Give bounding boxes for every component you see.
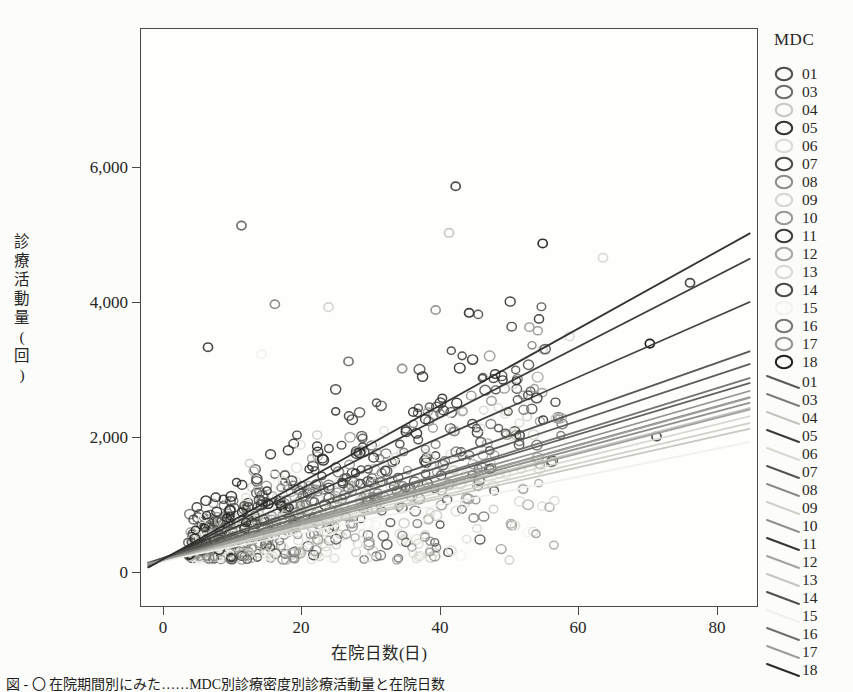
legend-marker-row-07[interactable]: 07 [766, 155, 853, 173]
legend-marker-label: 06 [802, 137, 818, 155]
legend-marker-label: 01 [802, 65, 818, 83]
x-tick-mark-80 [717, 607, 718, 615]
legend-marker-label: 16 [802, 317, 818, 335]
legend-marker-row-06[interactable]: 06 [766, 137, 853, 155]
x-tick-mark-0 [163, 607, 164, 615]
legend-line-label: 04 [802, 409, 818, 427]
x-tick-label-80: 80 [687, 618, 747, 638]
legend-line-label: 10 [802, 517, 818, 535]
circle-marker-icon [771, 137, 797, 155]
figure-caption: 図 ‐ 〇 在院期間別にみた……MDC別診療密度別診療活動量と在院日数 [6, 676, 847, 692]
legend-marker-row-10[interactable]: 10 [766, 209, 853, 227]
legend-line-row-09[interactable]: 09 [766, 499, 853, 517]
legend-marker-label: 18 [802, 353, 818, 371]
legend-marker-row-14[interactable]: 14 [766, 281, 853, 299]
legend-line-label: 13 [802, 571, 818, 589]
legend-marker-label: 14 [802, 281, 818, 299]
y-tick-label-0: 0 [50, 563, 128, 583]
circle-marker-icon [771, 101, 797, 119]
circle-marker-icon [771, 191, 797, 209]
line-segment-icon [766, 463, 800, 481]
line-segment-icon [766, 445, 800, 463]
legend-line-row-17[interactable]: 17 [766, 643, 853, 661]
legend-line-row-10[interactable]: 10 [766, 517, 853, 535]
legend-line-row-14[interactable]: 14 [766, 589, 853, 607]
line-segment-icon [766, 607, 800, 625]
circle-marker-icon [771, 209, 797, 227]
legend-line-row-04[interactable]: 04 [766, 409, 853, 427]
legend-line-row-01[interactable]: 01 [766, 373, 853, 391]
legend-marker-row-04[interactable]: 04 [766, 101, 853, 119]
scatter-plot-canvas [141, 29, 757, 606]
circle-marker-icon [771, 245, 797, 263]
y-axis-title-char: 回 [8, 346, 36, 365]
circle-marker-icon [771, 173, 797, 191]
legend-marker-row-05[interactable]: 05 [766, 119, 853, 137]
x-tick-mark-20 [301, 607, 302, 615]
legend-line-label: 01 [802, 373, 818, 391]
x-tick-label-60: 60 [548, 618, 608, 638]
figure-root: 診 療 活 動 量 ( 回 ) 6,000 4,000 2,000 0 0 20… [0, 0, 853, 692]
y-axis-title-char: 動 [8, 289, 36, 308]
legend-line-label: 15 [802, 607, 818, 625]
y-axis-title: 診 療 活 動 量 ( 回 ) [8, 232, 36, 384]
legend-line-row-07[interactable]: 07 [766, 463, 853, 481]
legend-line-label: 12 [802, 553, 818, 571]
legend-marker-row-15[interactable]: 15 [766, 299, 853, 317]
legend-marker-label: 10 [802, 209, 818, 227]
legend-marker-label: 03 [802, 83, 818, 101]
legend-marker-label: 12 [802, 245, 818, 263]
legend-line-label: 14 [802, 589, 818, 607]
legend-marker-row-17[interactable]: 17 [766, 335, 853, 353]
legend-line-label: 08 [802, 481, 818, 499]
legend: MDC 010304050607080910111213141516171801… [766, 30, 853, 670]
x-tick-mark-40 [440, 607, 441, 615]
y-tick-mark-6000 [132, 167, 140, 168]
legend-marker-row-13[interactable]: 13 [766, 263, 853, 281]
legend-line-row-16[interactable]: 16 [766, 625, 853, 643]
y-tick-label-6000: 6,000 [50, 158, 128, 178]
x-tick-label-0: 0 [133, 618, 193, 638]
legend-line-label: 11 [802, 535, 817, 553]
legend-line-row-06[interactable]: 06 [766, 445, 853, 463]
circle-marker-icon [771, 119, 797, 137]
line-segment-icon [766, 643, 800, 661]
legend-marker-label: 05 [802, 119, 818, 137]
legend-marker-label: 07 [802, 155, 818, 173]
legend-marker-row-03[interactable]: 03 [766, 83, 853, 101]
x-axis-title: 在院日数(日) [0, 640, 758, 664]
y-tick-label-2000: 2,000 [50, 428, 128, 448]
legend-line-row-11[interactable]: 11 [766, 535, 853, 553]
legend-line-label: 17 [802, 643, 818, 661]
legend-line-row-03[interactable]: 03 [766, 391, 853, 409]
legend-marker-row-01[interactable]: 01 [766, 65, 853, 83]
legend-line-row-05[interactable]: 05 [766, 427, 853, 445]
legend-marker-label: 04 [802, 101, 818, 119]
plot-area [140, 28, 758, 607]
legend-line-row-08[interactable]: 08 [766, 481, 853, 499]
legend-line-label: 07 [802, 463, 818, 481]
line-segment-icon [766, 553, 800, 571]
legend-marker-label: 17 [802, 335, 818, 353]
legend-marker-row-18[interactable]: 18 [766, 353, 853, 371]
legend-marker-row-16[interactable]: 16 [766, 317, 853, 335]
legend-marker-row-12[interactable]: 12 [766, 245, 853, 263]
legend-line-label: 05 [802, 427, 818, 445]
x-tick-label-40: 40 [410, 618, 470, 638]
legend-line-row-12[interactable]: 12 [766, 553, 853, 571]
legend-marker-row-08[interactable]: 08 [766, 173, 853, 191]
circle-marker-icon [771, 65, 797, 83]
line-segment-icon [766, 409, 800, 427]
line-segment-icon [766, 481, 800, 499]
y-axis-title-char: ) [8, 365, 36, 384]
legend-line-row-15[interactable]: 15 [766, 607, 853, 625]
legend-marker-row-09[interactable]: 09 [766, 191, 853, 209]
line-segment-icon [766, 535, 800, 553]
x-tick-mark-60 [578, 607, 579, 615]
circle-marker-icon [771, 353, 797, 371]
line-segment-icon [766, 517, 800, 535]
circle-marker-icon [771, 317, 797, 335]
circle-marker-icon [771, 227, 797, 245]
legend-marker-row-11[interactable]: 11 [766, 227, 853, 245]
legend-line-row-13[interactable]: 13 [766, 571, 853, 589]
